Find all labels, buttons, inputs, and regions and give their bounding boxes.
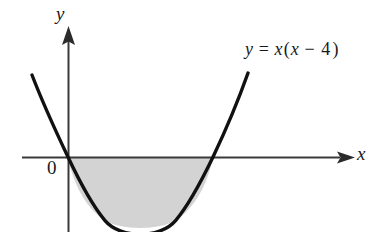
shaded-region xyxy=(68,157,213,228)
equation-paren-close: ) xyxy=(331,39,339,59)
parabola-figure: y x 0 y = x(x − 4) xyxy=(0,0,370,232)
x-axis-label: x xyxy=(357,144,365,163)
equation-minus: − xyxy=(299,39,320,59)
origin-label: 0 xyxy=(47,158,57,177)
equation-equals: = xyxy=(253,39,274,59)
equation-label: y = x(x − 4) xyxy=(245,40,340,58)
equation-factor-inner: x xyxy=(291,39,299,59)
figure-canvas xyxy=(0,0,370,232)
equation-constant: 4 xyxy=(320,39,331,59)
equation-lhs: y xyxy=(245,39,253,59)
y-axis-label: y xyxy=(56,4,64,23)
equation-factor-outer: x xyxy=(275,39,283,59)
equation-paren-open: ( xyxy=(283,39,291,59)
